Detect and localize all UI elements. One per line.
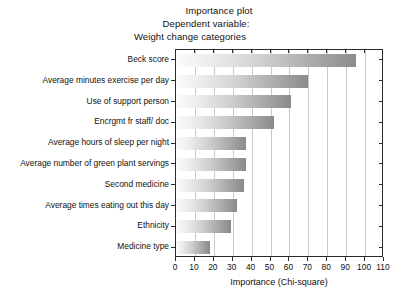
bar-row: [176, 71, 382, 92]
x-axis-top-tick: [364, 49, 365, 53]
x-axis-tick-70: [307, 257, 308, 261]
x-axis-title: Importance (Chi-square): [175, 277, 383, 287]
bar: [176, 137, 246, 150]
y-axis-label: Second medicine: [0, 180, 171, 189]
x-axis-tick-90: [345, 257, 346, 261]
x-axis-tick-100: [364, 257, 365, 261]
x-axis-top-tick: [270, 49, 271, 53]
y-axis-right-tick: [379, 101, 383, 102]
y-axis-label: Medicine type: [0, 242, 171, 251]
y-axis-right-tick: [379, 80, 383, 81]
y-axis-right-tick: [379, 184, 383, 185]
x-axis-tick-20: [213, 257, 214, 261]
bars-layer: [176, 50, 382, 256]
y-axis-right-tick: [379, 122, 383, 123]
x-axis-tick-10: [194, 257, 195, 261]
bar-row: [176, 196, 382, 217]
x-axis-top-tick: [251, 49, 252, 53]
y-axis-right-tick: [379, 163, 383, 164]
y-axis-label: Average times eating out this day: [0, 201, 171, 210]
bar: [176, 179, 244, 192]
bar-row: [176, 237, 382, 258]
chart-title: Importance plot: [0, 4, 406, 17]
bar-row: [176, 133, 382, 154]
bar: [176, 116, 274, 129]
y-axis-right-tick: [379, 59, 383, 60]
y-axis-right-tick: [379, 226, 383, 227]
bar: [176, 220, 231, 233]
y-axis-label: Average hours of sleep per night: [0, 138, 171, 147]
bar-row: [176, 92, 382, 113]
x-axis-top-tick: [194, 49, 195, 53]
chart-subtitle-line-2: Weight change categories: [0, 30, 406, 43]
x-axis-top-tick: [213, 49, 214, 53]
x-axis-top-tick: [307, 49, 308, 53]
bar: [176, 75, 308, 88]
y-axis-right-tick: [379, 143, 383, 144]
x-axis-tick-80: [326, 257, 327, 261]
y-axis-right-tick: [379, 205, 383, 206]
x-axis-top-tick: [345, 49, 346, 53]
y-axis-category-labels: Beck scoreAverage minutes exercise per d…: [0, 49, 171, 257]
x-axis-tick-40: [251, 257, 252, 261]
y-axis-label: Ethnicity: [0, 221, 171, 230]
bar-row: [176, 112, 382, 133]
x-axis-tick-0: [175, 257, 176, 261]
x-axis-tick-30: [232, 257, 233, 261]
bar: [176, 199, 237, 212]
bar: [176, 241, 210, 254]
y-axis-label: Average number of green plant servings: [0, 159, 171, 168]
y-axis-label: Encrgmt fr staff/ doc: [0, 117, 171, 126]
chart-title-block: Importance plot Dependent variable: Weig…: [0, 4, 406, 43]
x-axis-tick-110: [383, 257, 384, 261]
y-axis-label: Average minutes exercise per day: [0, 76, 171, 85]
bar-row: [176, 50, 382, 71]
x-axis-tick-60: [288, 257, 289, 261]
x-axis-tick-label: 110: [371, 262, 395, 272]
x-axis-top-tick: [326, 49, 327, 53]
bar-row: [176, 216, 382, 237]
x-axis-top-tick: [232, 49, 233, 53]
x-axis-top-tick: [288, 49, 289, 53]
x-axis-tick-50: [270, 257, 271, 261]
bar: [176, 158, 246, 171]
chart-subtitle-line-1: Dependent variable:: [0, 17, 406, 30]
importance-plot-figure: Importance plot Dependent variable: Weig…: [0, 0, 406, 303]
bar-row: [176, 175, 382, 196]
bar: [176, 54, 356, 67]
y-axis-label: Beck score: [0, 55, 171, 64]
y-axis-label: Use of support person: [0, 97, 171, 106]
y-axis-right-tick: [379, 247, 383, 248]
bar-row: [176, 154, 382, 175]
plot-area: [175, 49, 383, 257]
bar: [176, 95, 291, 108]
